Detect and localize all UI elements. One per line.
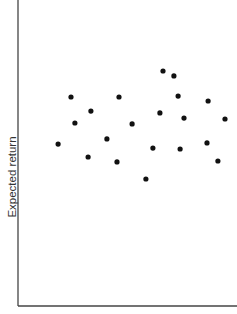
data-point <box>178 146 183 151</box>
data-point <box>206 98 211 103</box>
data-point <box>114 159 119 164</box>
data-point <box>104 136 109 141</box>
data-point <box>150 146 155 151</box>
data-point <box>86 154 91 159</box>
data-point <box>143 176 148 181</box>
data-point <box>157 110 162 115</box>
data-point <box>204 140 209 145</box>
data-point <box>88 109 93 114</box>
data-point <box>181 116 186 121</box>
data-point <box>116 94 121 99</box>
data-point <box>176 94 181 99</box>
data-point <box>56 142 61 147</box>
data-point <box>68 94 73 99</box>
data-point <box>222 116 227 121</box>
data-point <box>72 120 77 125</box>
data-point <box>171 73 176 78</box>
data-point <box>160 68 165 73</box>
data-point <box>215 158 220 163</box>
scatter-plot <box>0 0 237 314</box>
data-point <box>130 121 135 126</box>
y-axis-label: Expected return <box>5 132 19 222</box>
data-points <box>56 68 228 181</box>
